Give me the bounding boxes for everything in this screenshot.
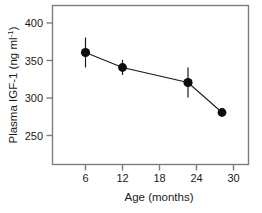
- data-point-12mo-340: [118, 63, 127, 72]
- igf1-vs-age-line-chart: 400 350 300 250 6 12 18 24 30 Age (month…: [0, 0, 262, 213]
- x-tick-label-24: 24: [190, 172, 202, 184]
- x-tick-label-12: 12: [116, 172, 128, 184]
- x-tick-label-6: 6: [82, 172, 88, 184]
- y-axis-title: Plasma IGF-1 (ng ml-1): [6, 26, 19, 143]
- y-tick-label-250: 250: [25, 130, 43, 142]
- y-tick-label-400: 400: [25, 17, 43, 29]
- data-point-28mo-280: [218, 108, 227, 117]
- svg-text:Plasma IGF-1 (ng ml-1): Plasma IGF-1 (ng ml-1): [6, 26, 19, 143]
- x-axis-title: Age (months): [124, 191, 193, 203]
- x-tick-label-30: 30: [227, 172, 239, 184]
- x-tick-label-18: 18: [153, 172, 165, 184]
- figure-container: 400 350 300 250 6 12 18 24 30 Age (month…: [0, 0, 262, 213]
- y-tick-label-350: 350: [25, 55, 43, 67]
- y-axis-title-tail: ): [7, 26, 19, 30]
- y-axis-title-main: Plasma IGF-1 (ng ml: [7, 37, 19, 143]
- x-axis-ticks: [86, 165, 234, 171]
- data-point-6mo-360: [81, 48, 90, 57]
- data-point-markers: [81, 48, 227, 117]
- plot-frame: [53, 6, 249, 165]
- series-line-plasma-igf1: [86, 53, 223, 113]
- error-bars: [86, 38, 189, 98]
- y-tick-label-300: 300: [25, 92, 43, 104]
- data-point-22mo-320: [183, 78, 192, 87]
- y-axis-ticks: [47, 23, 53, 136]
